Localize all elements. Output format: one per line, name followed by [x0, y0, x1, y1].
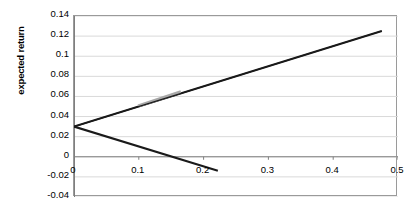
- y-axis-tick-label: 0.06: [25, 88, 69, 99]
- y-axis-tick-label: -0.04: [25, 189, 69, 200]
- y-axis-tick-label: 0.12: [25, 28, 69, 39]
- x-axis-tick-label: 0.1: [118, 164, 158, 175]
- y-axis-tick-label: 0.14: [25, 8, 69, 19]
- y-axis-tick-labels: 0.140.120.10.080.060.040.020-0.02-0.04: [24, 0, 69, 210]
- series-upper-branch-core: [74, 31, 382, 127]
- x-axis-tick-label: 0: [53, 164, 93, 175]
- x-axis-tick-label: 0.2: [183, 164, 223, 175]
- series-lines: [74, 31, 382, 171]
- x-axis-tick-label: 0.3: [247, 164, 287, 175]
- x-axis-tick-label: 0.4: [312, 164, 352, 175]
- chart-container: expected return 0.140.120.10.080.060.040…: [0, 0, 419, 210]
- x-axis-tick-labels: 00.10.20.30.40.5: [0, 164, 419, 178]
- y-axis-tick-label: 0.1: [25, 48, 69, 59]
- y-axis-tick-label: 0.08: [25, 68, 69, 79]
- x-axis-tick-label: 0.5: [377, 164, 417, 175]
- series-highlighted-segment: [138, 92, 181, 106]
- y-axis-tick-label: 0.04: [25, 109, 69, 120]
- y-axis-tick-label: 0.02: [25, 129, 69, 140]
- y-axis-tick-label: 0: [25, 149, 69, 160]
